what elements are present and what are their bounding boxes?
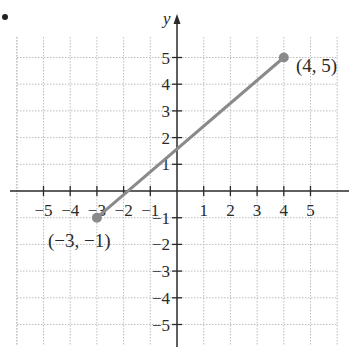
y-axis-arrow-icon: [174, 14, 181, 24]
segment-series: [92, 53, 289, 223]
x-tick-label: 5: [306, 201, 315, 220]
point-label-b: (4, 5): [296, 55, 337, 77]
plot-area: −5−4−3−2−112345 −5−4−3−2−112345 y (−3, −…: [0, 0, 349, 347]
y-tick-label: −4: [152, 289, 171, 308]
x-tick-label: 4: [280, 201, 289, 220]
y-tick-label: −5: [152, 316, 170, 335]
list-bullet: [2, 14, 8, 20]
x-tick-label: 1: [199, 201, 208, 220]
y-tick-label: −1: [152, 209, 170, 228]
x-tick-label: 3: [253, 201, 262, 220]
y-tick-label: 4: [162, 75, 171, 94]
line-segment: [97, 58, 284, 218]
y-tick-label: 3: [162, 102, 171, 121]
data-point: [279, 53, 289, 63]
y-axis-label: y: [161, 9, 171, 28]
y-tick-label: 2: [162, 129, 171, 148]
x-tick-label: −2: [115, 201, 133, 220]
data-point: [92, 213, 102, 223]
y-tick-label: −3: [152, 262, 170, 281]
x-tick-label: −5: [34, 201, 52, 220]
x-tick-label: 2: [226, 201, 235, 220]
coordinate-plane-figure: −5−4−3−2−112345 −5−4−3−2−112345 y (−3, −…: [0, 0, 349, 347]
x-tick-label: −4: [61, 201, 80, 220]
y-tick-label: 5: [162, 49, 171, 68]
point-label-a: (−3, −1): [48, 230, 111, 252]
y-tick-label: −2: [152, 235, 170, 254]
